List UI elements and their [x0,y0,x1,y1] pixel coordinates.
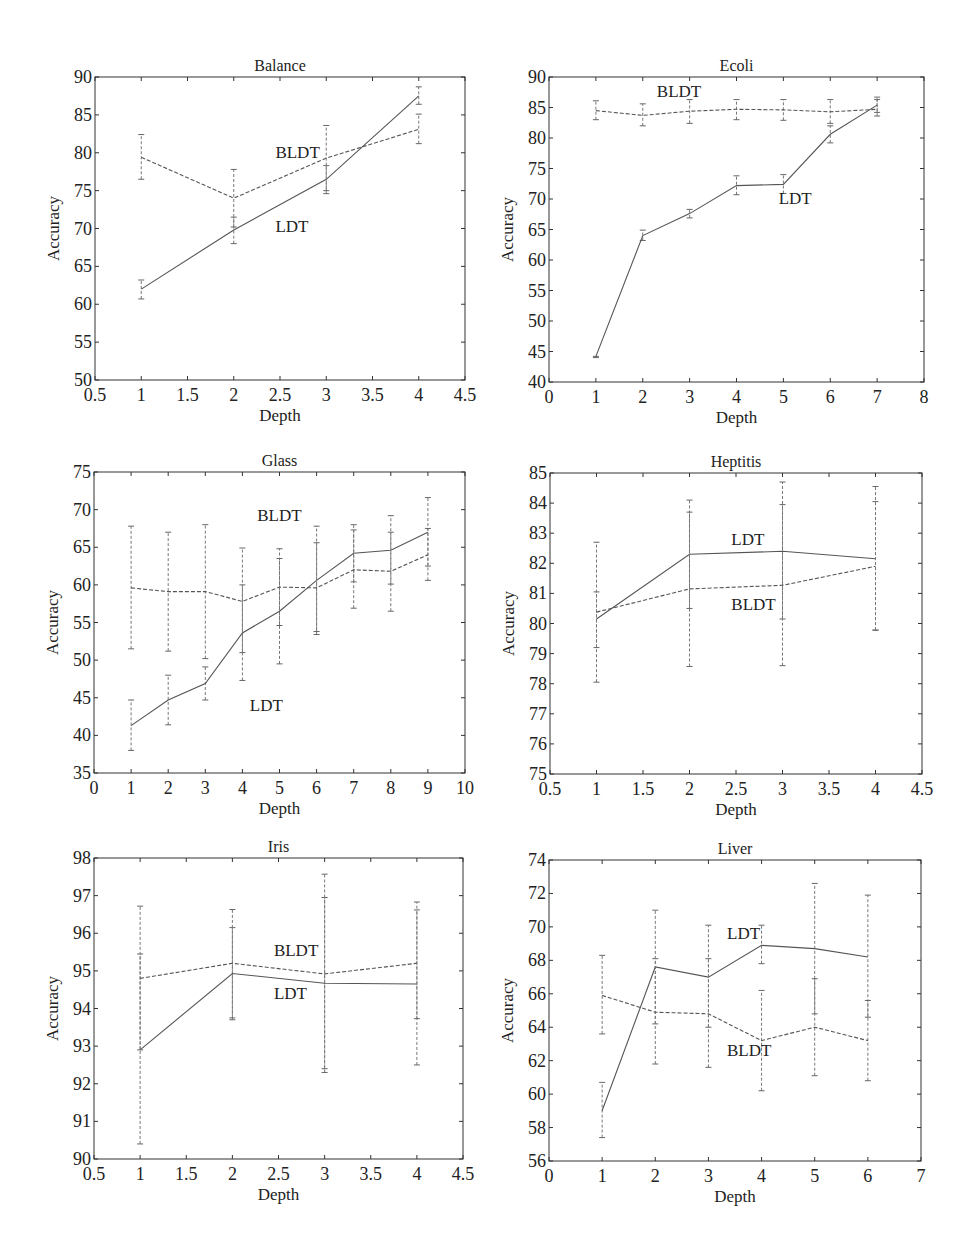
x-tick-label: 1 [137,385,146,405]
y-axis-label: Accuracy [498,977,517,1043]
y-tick-label: 95 [73,961,91,981]
x-tick-label: 2.5 [269,385,292,405]
y-tick-label: 56 [528,1151,546,1171]
y-tick-label: 76 [529,734,547,754]
y-tick-label: 65 [73,537,91,557]
y-tick-label: 75 [528,159,546,179]
y-tick-label: 85 [529,463,547,483]
x-tick-label: 1 [592,779,601,799]
y-axis-label: Accuracy [43,589,62,655]
x-tick-label: 3 [685,387,694,407]
series-annotation: BLDT [275,143,320,162]
series-annotation: LDT [274,984,308,1003]
y-tick-label: 55 [74,332,92,352]
series-ldt [137,898,420,1144]
y-tick-label: 70 [74,219,92,239]
series-annotation: BLDT [731,595,776,614]
x-axis-label: Depth [259,406,301,425]
figure-canvas: Balance0.511.522.533.544.550556065707580… [0,0,971,1259]
x-tick-label: 7 [917,1166,926,1186]
x-tick-label: 4 [732,387,741,407]
x-tick-label: 6 [826,387,835,407]
chart-title: Ecoli [720,57,754,74]
y-tick-label: 74 [528,850,546,870]
x-tick-label: 2 [638,387,647,407]
y-tick-label: 60 [73,575,91,595]
x-tick-label: 4.5 [911,779,934,799]
x-tick-label: 7 [873,387,882,407]
y-tick-label: 58 [528,1118,546,1138]
y-axis-label: Accuracy [44,195,63,261]
x-tick-label: 3.5 [361,385,384,405]
series-ldt [594,482,879,682]
y-tick-label: 94 [73,999,91,1019]
x-tick-label: 2.5 [267,1164,290,1184]
y-tick-label: 98 [73,848,91,868]
x-tick-label: 4.5 [452,1164,475,1184]
y-tick-label: 79 [529,644,547,664]
x-tick-label: 1.5 [175,1164,198,1184]
y-axis-label: Accuracy [499,590,518,656]
series-annotation: BLDT [274,941,319,960]
x-tick-label: 4 [238,778,247,798]
series-annotation: BLDT [257,506,302,525]
series-annotation: BLDT [657,82,702,101]
y-tick-label: 60 [528,250,546,270]
y-tick-label: 91 [73,1111,91,1131]
y-tick-label: 97 [73,886,91,906]
series-ldt [138,87,422,299]
axes-frame [549,77,924,382]
x-tick-label: 3.5 [818,779,841,799]
series-bldt [594,502,879,667]
series-line [602,945,868,1111]
subplot-glass: Glass012345678910354045505560657075Depth… [43,452,474,818]
subplot-balance: Balance0.511.522.533.544.550556065707580… [44,57,476,425]
y-tick-label: 80 [529,614,547,634]
x-tick-label: 3 [320,1164,329,1184]
y-tick-label: 83 [529,523,547,543]
y-tick-label: 85 [528,98,546,118]
series-annotation: BLDT [727,1041,772,1060]
series-line [141,129,419,198]
y-tick-label: 78 [529,674,547,694]
series-ldt [599,883,871,1137]
x-tick-label: 4 [414,385,423,405]
axes-frame [549,860,921,1161]
x-tick-label: 2 [229,385,238,405]
series-bldt [593,97,880,126]
series-annotation: LDT [250,696,284,715]
x-tick-label: 8 [920,387,929,407]
axes-frame [94,858,463,1159]
y-axis-label: Accuracy [498,196,517,262]
x-tick-label: 3 [778,779,787,799]
x-tick-label: 4 [412,1164,421,1184]
axes-frame [550,473,922,774]
series-line [141,96,419,289]
y-tick-label: 64 [528,1017,546,1037]
y-tick-label: 70 [528,189,546,209]
y-tick-label: 93 [73,1036,91,1056]
x-tick-label: 2 [164,778,173,798]
y-tick-label: 70 [528,917,546,937]
x-tick-label: 7 [349,778,358,798]
x-tick-label: 2 [228,1164,237,1184]
x-tick-label: 1.5 [176,385,199,405]
y-tick-label: 75 [74,181,92,201]
subplot-heptitis: Heptitis0.511.522.533.544.57576777879808… [499,453,933,819]
y-tick-label: 45 [528,342,546,362]
chart-title: Liver [718,840,753,857]
x-tick-label: 5 [810,1166,819,1186]
x-tick-label: 1 [591,387,600,407]
y-tick-label: 82 [529,553,547,573]
x-tick-label: 4 [757,1166,766,1186]
y-tick-label: 65 [528,220,546,240]
x-tick-label: 1 [598,1166,607,1186]
x-tick-label: 3 [704,1166,713,1186]
y-tick-label: 96 [73,923,91,943]
x-axis-label: Depth [715,800,757,819]
y-tick-label: 85 [74,105,92,125]
y-tick-label: 55 [73,613,91,633]
chart-title: Glass [262,452,298,469]
y-tick-label: 80 [528,128,546,148]
y-tick-label: 35 [73,763,91,783]
